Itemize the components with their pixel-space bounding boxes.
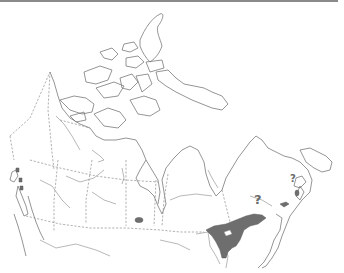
mainland-coastline [50, 72, 312, 268]
range-bc-coast-3 [20, 186, 23, 190]
range-bc-coast-2 [19, 178, 22, 182]
range-manitoba [135, 217, 143, 222]
pacific-coast [10, 170, 44, 256]
uncertain-range-marker-maritimes: ? [290, 174, 296, 184]
range-areas [16, 168, 299, 258]
uncertain-range-marker-quebec: ? [254, 193, 262, 206]
arctic-islands [60, 14, 228, 128]
range-ontario-quebec [206, 214, 266, 258]
canada-range-map [0, 0, 344, 273]
atlantic-coast [258, 148, 332, 268]
range-new-brunswick [280, 202, 289, 207]
rivers-lakes [40, 116, 272, 268]
provincial-borders [10, 72, 230, 232]
range-bc-coast-1 [16, 168, 19, 172]
range-nova-scotia [295, 190, 299, 196]
